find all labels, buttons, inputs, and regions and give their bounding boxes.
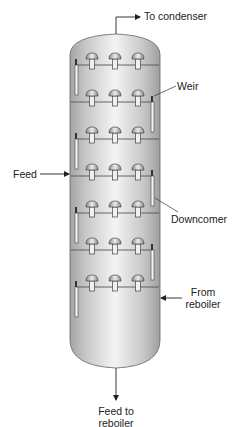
weir <box>75 133 77 139</box>
weir <box>75 59 77 65</box>
weir <box>151 244 153 250</box>
feed-to-reboiler-line1: Feed to <box>94 405 138 417</box>
from-reboiler-line2: reboiler <box>183 298 223 310</box>
to-condenser-label: To condenser <box>144 10 207 22</box>
weir <box>75 207 77 213</box>
feed-to-reboiler-line2: reboiler <box>94 417 138 427</box>
to-condenser-line <box>116 17 140 34</box>
weir <box>75 281 77 287</box>
downcomer-label: Downcomer <box>171 213 227 225</box>
from-reboiler-label: From reboiler <box>183 286 223 310</box>
feed-label: Feed <box>13 168 37 180</box>
weir <box>151 170 153 176</box>
from-reboiler-line1: From <box>183 286 223 298</box>
feed-to-reboiler-label: Feed to reboiler <box>94 405 138 427</box>
weir <box>151 96 153 102</box>
weir-label: Weir <box>177 80 198 92</box>
